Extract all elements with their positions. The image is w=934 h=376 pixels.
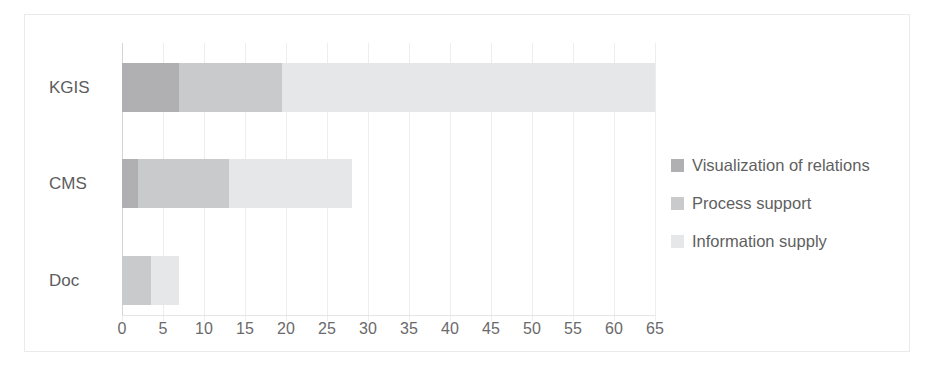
- x-axis-baseline: [122, 315, 655, 316]
- x-tick-label-10: 10: [195, 321, 213, 337]
- x-tick-label-60: 60: [605, 321, 623, 337]
- x-tick-label-30: 30: [359, 321, 377, 337]
- bar-row-kgis: [122, 63, 655, 112]
- x-tick-label-65: 65: [646, 321, 664, 337]
- x-tick-label-55: 55: [564, 321, 582, 337]
- x-tick-label-25: 25: [318, 321, 336, 337]
- x-tick-label-40: 40: [441, 321, 459, 337]
- bar-segment-kgis-0: [122, 63, 179, 112]
- y-axis-label-kgis: KGIS: [49, 79, 117, 96]
- chart-figure: KGISCMSDoc 05101520253035404550556065 Vi…: [0, 0, 934, 376]
- chart-legend: Visualization of relationsProcess suppor…: [671, 147, 921, 261]
- y-axis-label-cms: CMS: [49, 175, 117, 192]
- bar-segment-cms-1: [138, 159, 228, 208]
- legend-swatch-icon: [671, 159, 684, 172]
- legend-label: Process support: [692, 195, 811, 212]
- x-tick-label-0: 0: [118, 321, 127, 337]
- bar-segment-cms-2: [229, 159, 352, 208]
- bar-segment-kgis-1: [179, 63, 282, 112]
- bar-segment-kgis-2: [282, 63, 655, 112]
- x-tick-label-45: 45: [482, 321, 500, 337]
- x-tick-label-35: 35: [400, 321, 418, 337]
- bar-row-cms: [122, 159, 655, 208]
- legend-swatch-icon: [671, 235, 684, 248]
- chart-frame: KGISCMSDoc 05101520253035404550556065 Vi…: [24, 14, 910, 352]
- bar-segment-cms-0: [122, 159, 138, 208]
- gridline-65: [655, 43, 656, 315]
- legend-label: Visualization of relations: [692, 157, 870, 174]
- x-tick-label-50: 50: [523, 321, 541, 337]
- x-axis-tick-labels: 05101520253035404550556065: [122, 321, 655, 351]
- bar-segment-doc-1: [122, 256, 151, 305]
- legend-label: Information supply: [692, 233, 827, 250]
- plot-area: [122, 43, 655, 315]
- x-tick-label-5: 5: [159, 321, 168, 337]
- x-tick-label-20: 20: [277, 321, 295, 337]
- bar-row-doc: [122, 256, 655, 305]
- legend-swatch-icon: [671, 197, 684, 210]
- x-tick-label-15: 15: [236, 321, 254, 337]
- legend-item-1[interactable]: Process support: [671, 185, 921, 221]
- legend-item-2[interactable]: Information supply: [671, 223, 921, 259]
- legend-item-0[interactable]: Visualization of relations: [671, 147, 921, 183]
- bar-segment-doc-2: [151, 256, 180, 305]
- y-axis-category-labels: KGISCMSDoc: [47, 43, 117, 315]
- y-axis-label-doc: Doc: [49, 272, 117, 289]
